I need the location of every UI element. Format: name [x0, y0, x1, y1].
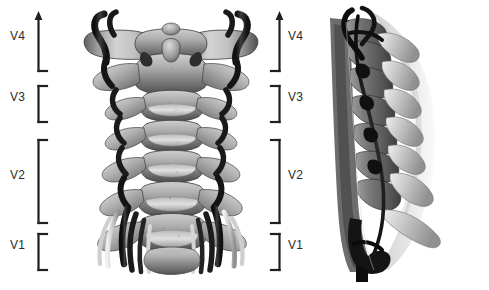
right-bracket-v2	[269, 138, 285, 226]
right-segment-label-v4: V4	[288, 30, 303, 42]
left-bracket-v4	[33, 10, 49, 76]
right-bracket-v3	[269, 84, 285, 125]
anterior-cervical-spine-view	[78, 2, 264, 288]
left-segment-label-v2: V2	[10, 169, 25, 181]
right-bracket-v1	[269, 232, 285, 273]
left-bracket-v1	[33, 232, 49, 273]
right-segment-label-v2: V2	[288, 169, 303, 181]
lateral-cervical-spine-view	[328, 4, 453, 284]
left-segment-label-v3: V3	[10, 91, 25, 103]
left-bracket-v3	[33, 84, 49, 125]
left-segment-label-v4: V4	[10, 30, 25, 42]
right-bracket-v4	[269, 10, 285, 76]
right-segment-label-v1: V1	[288, 239, 303, 251]
figure-container: V4 V3 V2 V1	[0, 0, 489, 290]
left-segment-label-v1: V1	[10, 239, 25, 251]
left-bracket-v2	[33, 138, 49, 226]
right-segment-label-v3: V3	[288, 91, 303, 103]
